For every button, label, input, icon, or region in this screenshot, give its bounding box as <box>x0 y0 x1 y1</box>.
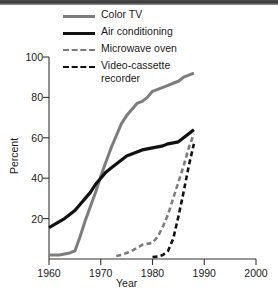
x-tick-label-1970: 1970 <box>86 267 116 279</box>
y-axis-title: Percent <box>8 126 20 186</box>
y-tick-label-80: 80 <box>21 91 43 103</box>
x-tick-label-1960: 1960 <box>34 267 64 279</box>
y-tick-label-60: 60 <box>21 132 43 144</box>
chart-figure: 100 80 60 40 20 1960 1970 1980 1990 2000… <box>0 0 278 294</box>
y-tick-label-40: 40 <box>21 172 43 184</box>
series-line-color-tv <box>49 73 194 255</box>
legend-swatch-color-tv <box>63 15 95 18</box>
legend-swatch-microwave-oven <box>63 49 95 51</box>
y-tick-label-100: 100 <box>21 51 43 63</box>
legend-label-color-tv: Color TV <box>101 8 142 21</box>
legend-swatch-air-conditioning <box>63 32 95 35</box>
legend-item-microwave-oven: Microwave oven <box>63 42 213 58</box>
x-axis-title: Year <box>116 277 137 289</box>
x-axis-ticks <box>49 259 256 265</box>
legend-label-microwave-oven: Microwave oven <box>101 42 177 55</box>
y-axis-ticks <box>43 57 49 219</box>
x-tick-label-1980: 1980 <box>138 267 168 279</box>
legend-label-air-conditioning: Air conditioning <box>101 25 173 38</box>
legend-item-color-tv: Color TV <box>63 8 213 24</box>
series-paths <box>49 73 194 257</box>
legend-item-air-conditioning: Air conditioning <box>63 25 213 41</box>
series-line-air-conditioning <box>49 130 194 228</box>
legend-label-video-cassette-recorder: Video-cassette recorder <box>101 59 170 84</box>
legend-swatch-video-cassette-recorder <box>63 66 95 68</box>
legend-item-video-cassette-recorder: Video-cassette recorder <box>63 59 213 75</box>
x-tick-label-1990: 1990 <box>189 267 219 279</box>
x-tick-label-2000: 2000 <box>241 267 271 279</box>
chart-legend: Color TV Air conditioning Microwave oven… <box>63 8 213 76</box>
y-tick-label-20: 20 <box>21 213 43 225</box>
